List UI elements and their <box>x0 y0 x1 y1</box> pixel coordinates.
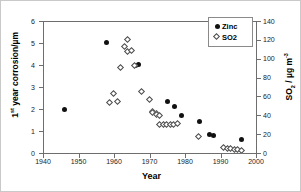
y-right-tick-label: 0 <box>263 150 285 157</box>
y-right-tick <box>257 59 261 60</box>
y-right-tick <box>257 134 261 135</box>
y-axis-left-title: 1st year corrosion/µm <box>8 10 20 140</box>
data-point-zinc <box>197 119 202 124</box>
y-right-tick <box>257 153 261 154</box>
data-point-zinc <box>179 113 184 118</box>
legend-label-zinc: Zinc <box>222 22 237 31</box>
x-tick-label: 1960 <box>99 158 129 165</box>
y-axis-right-title: SO2 / µg m-3 <box>282 12 298 142</box>
y-right-tick <box>257 78 261 79</box>
x-tick-label: 1950 <box>64 158 94 165</box>
x-axis-title: Year <box>1 171 301 181</box>
y-right-title-mid: / µg m <box>284 58 294 85</box>
data-point-zinc <box>62 107 67 112</box>
open-diamond-icon <box>213 33 222 42</box>
y-right-title-sub: 2 <box>290 85 296 88</box>
x-tick-label: 1970 <box>135 158 165 165</box>
legend-item-so2: SO2 <box>213 32 252 43</box>
x-tick-label: 1980 <box>170 158 200 165</box>
legend-label-so2: SO2 <box>222 33 237 42</box>
chart-legend: Zinc SO2 <box>208 17 253 47</box>
y-right-tick <box>257 96 261 97</box>
legend-item-zinc: Zinc <box>213 21 252 32</box>
data-point-zinc <box>172 104 177 109</box>
y-right-tick <box>257 40 261 41</box>
y-right-tick <box>257 115 261 116</box>
y-right-title-sup: -3 <box>283 53 289 58</box>
y-right-tick <box>257 21 261 22</box>
y-left-title-sup: st <box>9 108 15 113</box>
y-left-title-num: 1 <box>10 113 20 118</box>
x-tick-label: 2000 <box>241 158 271 165</box>
y-right-title-base: SO <box>284 88 294 100</box>
y-left-title-rest: year corrosion/µm <box>10 32 20 108</box>
x-tick-label: 1940 <box>28 158 58 165</box>
x-tick-label: 1990 <box>206 158 236 165</box>
filled-circle-icon <box>213 22 222 31</box>
y-left-tick-label: 0 <box>15 150 35 157</box>
chart-figure: 0123456020406080100120140194019501960197… <box>0 0 301 192</box>
